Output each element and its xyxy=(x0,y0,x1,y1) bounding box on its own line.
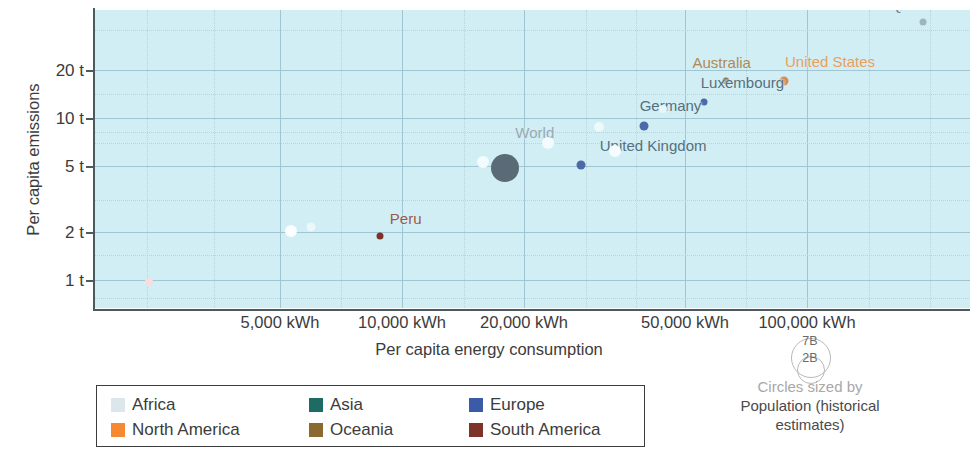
y-axis-line xyxy=(93,8,95,310)
y-tick-mark-10t xyxy=(86,118,95,120)
legend-item-north-america[interactable]: North America xyxy=(111,420,309,440)
data-point-germany[interactable] xyxy=(640,121,649,130)
data-point[interactable] xyxy=(542,137,554,149)
data-point-peru[interactable] xyxy=(376,233,383,240)
legend-swatch-icon xyxy=(309,398,323,412)
gridline-horizontal-2t xyxy=(94,232,970,233)
size-legend-label-7b: 7B xyxy=(802,334,817,348)
gridline-horizontal-minor xyxy=(94,143,970,144)
gridline-vertical-minor xyxy=(147,10,148,308)
gridline-vertical-minor xyxy=(214,10,215,308)
legend-item-label: South America xyxy=(490,420,601,440)
size-legend-label-2b: 2B xyxy=(802,351,817,365)
gridline-horizontal-5t xyxy=(94,166,970,167)
gridline-horizontal-20t xyxy=(94,70,970,71)
plot-area: QatarUnited StatesAustraliaLuxembourgGer… xyxy=(94,10,970,308)
data-point-label-peru: Peru xyxy=(390,210,422,227)
gridline-vertical-minor xyxy=(464,10,465,308)
data-point[interactable] xyxy=(307,223,316,232)
data-point-luxembourg[interactable] xyxy=(701,98,708,105)
x-tick-label-5000: 5,000 kWh xyxy=(241,313,320,332)
legend-item-oceania[interactable]: Oceania xyxy=(309,420,469,440)
legend-item-label: Africa xyxy=(132,395,175,415)
y-axis-title: Per capita emissions xyxy=(24,45,43,275)
data-point[interactable] xyxy=(145,278,153,286)
legend-swatch-icon xyxy=(469,423,483,437)
gridline-vertical-50000 xyxy=(685,10,686,308)
data-point-qatar[interactable] xyxy=(920,18,927,25)
gridline-horizontal-minor xyxy=(94,94,970,95)
y-tick-mark-1t xyxy=(86,280,95,282)
data-point-united-kingdom[interactable] xyxy=(577,160,586,169)
legend-grid: AfricaAsiaEuropeNorth AmericaOceaniaSout… xyxy=(111,392,635,442)
y-tick-mark-20t xyxy=(86,70,95,72)
gridline-vertical-10000 xyxy=(402,10,403,308)
size-legend: 7B 2B Circles sized by Population (histo… xyxy=(665,330,955,434)
chart-root: QatarUnited StatesAustraliaLuxembourgGer… xyxy=(0,0,970,474)
y-tick-mark-2t xyxy=(86,232,95,234)
size-legend-circles: 7B 2B xyxy=(665,330,955,376)
size-legend-caption-line1: Circles sized by xyxy=(665,377,955,396)
data-point-world[interactable] xyxy=(491,154,519,182)
data-point[interactable] xyxy=(594,122,604,132)
data-point[interactable] xyxy=(285,225,297,237)
legend-item-europe[interactable]: Europe xyxy=(469,395,635,415)
legend-box: AfricaAsiaEuropeNorth AmericaOceaniaSout… xyxy=(96,385,645,447)
data-point-label-united-states: United States xyxy=(785,53,875,70)
gridline-vertical-minor xyxy=(636,10,637,308)
data-point[interactable] xyxy=(659,105,667,113)
data-point[interactable] xyxy=(609,145,621,157)
x-tick-label-20000: 20,000 kWh xyxy=(480,313,568,332)
legend-swatch-icon xyxy=(309,423,323,437)
data-point[interactable] xyxy=(477,156,489,168)
gridline-horizontal-1t xyxy=(94,280,970,281)
gridline-vertical-minor xyxy=(586,10,587,308)
legend-swatch-icon xyxy=(111,398,125,412)
legend-item-africa[interactable]: Africa xyxy=(111,395,309,415)
legend-item-label: Oceania xyxy=(330,420,393,440)
y-tick-mark-5t xyxy=(86,166,95,168)
gridline-vertical-minor xyxy=(341,10,342,308)
size-legend-caption-line3: estimates) xyxy=(665,415,955,434)
gridline-horizontal-10t xyxy=(94,118,970,119)
x-axis-line xyxy=(93,309,970,311)
data-point-label-germany: Germany xyxy=(640,97,702,114)
gridline-horizontal-minor xyxy=(94,30,970,31)
data-point-label-qatar: Qatar xyxy=(891,10,929,13)
size-legend-caption: Circles sized by Population (historical … xyxy=(665,377,955,434)
gridline-vertical-minor xyxy=(930,10,931,308)
legend-swatch-icon xyxy=(111,423,125,437)
legend-item-label: Europe xyxy=(490,395,545,415)
data-point-label-australia: Australia xyxy=(693,54,751,71)
data-point-label-luxembourg: Luxembourg xyxy=(701,74,784,91)
legend-item-south-america[interactable]: South America xyxy=(469,420,635,440)
gridline-vertical-5000 xyxy=(280,10,281,308)
legend-item-asia[interactable]: Asia xyxy=(309,395,469,415)
gridline-horizontal-minor xyxy=(94,200,970,201)
size-legend-caption-line2: Population (historical xyxy=(665,396,955,415)
legend-item-label: Asia xyxy=(330,395,363,415)
legend-item-label: North America xyxy=(132,420,240,440)
gridline-vertical-20000 xyxy=(524,10,525,308)
legend-swatch-icon xyxy=(469,398,483,412)
gridline-horizontal-minor xyxy=(94,298,970,299)
x-tick-label-10000: 10,000 kWh xyxy=(358,313,446,332)
gridline-horizontal-minor xyxy=(94,255,970,256)
